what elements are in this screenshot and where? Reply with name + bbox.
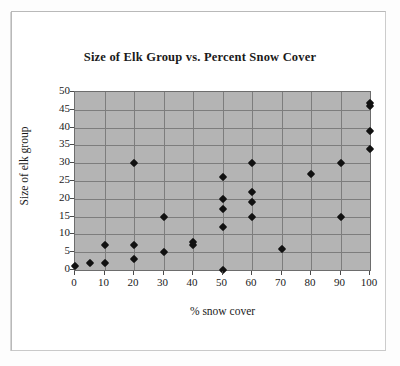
y-tick-mark <box>70 269 74 270</box>
y-tick-mark <box>70 216 74 217</box>
x-tick-mark <box>133 271 134 275</box>
data-point <box>159 248 167 256</box>
y-tick-mark <box>70 91 74 92</box>
x-axis-label: % snow cover <box>74 305 371 317</box>
x-axis-tick-labels: 0102030405060708090100 <box>74 277 371 293</box>
y-axis-label: Size of elk group <box>18 106 30 226</box>
y-tick-label: 15 <box>40 210 70 221</box>
y-tick-mark <box>70 198 74 199</box>
y-tick-label: 30 <box>40 156 70 167</box>
x-tick-label: 100 <box>349 277 389 288</box>
data-point <box>336 159 344 167</box>
x-tick-mark <box>340 271 341 275</box>
x-tick-mark <box>222 271 223 275</box>
y-tick-label: 25 <box>40 174 70 185</box>
y-tick-label: 0 <box>40 263 70 274</box>
y-tick-mark <box>70 127 74 128</box>
gridline-vertical <box>164 92 165 270</box>
y-tick-label: 45 <box>40 103 70 114</box>
data-point <box>159 212 167 220</box>
data-point <box>218 195 226 203</box>
y-tick-label: 35 <box>40 138 70 149</box>
data-point <box>218 205 226 213</box>
data-point <box>130 159 138 167</box>
x-tick-mark <box>281 271 282 275</box>
data-point <box>100 259 108 267</box>
data-point <box>307 170 315 178</box>
y-tick-label: 40 <box>40 121 70 132</box>
data-point <box>336 212 344 220</box>
x-tick-mark <box>104 271 105 275</box>
y-tick-mark <box>70 109 74 110</box>
x-tick-mark <box>192 271 193 275</box>
data-point <box>248 212 256 220</box>
y-tick-label: 50 <box>40 85 70 96</box>
y-tick-label: 10 <box>40 227 70 238</box>
x-tick-mark <box>369 271 370 275</box>
y-tick-mark <box>70 251 74 252</box>
y-tick-mark <box>70 180 74 181</box>
data-point <box>248 187 256 195</box>
x-tick-mark <box>251 271 252 275</box>
data-point <box>130 241 138 249</box>
y-tick-label: 5 <box>40 245 70 256</box>
x-tick-mark <box>163 271 164 275</box>
chart-title: Size of Elk Group vs. Percent Snow Cover <box>0 50 400 65</box>
y-tick-label: 20 <box>40 192 70 203</box>
y-tick-mark <box>70 162 74 163</box>
data-point <box>100 241 108 249</box>
x-tick-mark <box>74 271 75 275</box>
plot-area <box>74 91 371 271</box>
data-point <box>130 255 138 263</box>
data-point <box>86 259 94 267</box>
gridline-vertical <box>282 92 283 270</box>
y-tick-mark <box>70 233 74 234</box>
gridline-vertical <box>341 92 342 270</box>
y-axis-tick-labels: 05101520253035404550 <box>38 91 70 271</box>
x-tick-mark <box>310 271 311 275</box>
data-point <box>218 223 226 231</box>
data-point <box>248 159 256 167</box>
chart-page: Size of Elk Group vs. Percent Snow Cover… <box>0 0 400 366</box>
gridline-vertical <box>311 92 312 270</box>
gridline-vertical <box>252 92 253 270</box>
y-tick-mark <box>70 144 74 145</box>
